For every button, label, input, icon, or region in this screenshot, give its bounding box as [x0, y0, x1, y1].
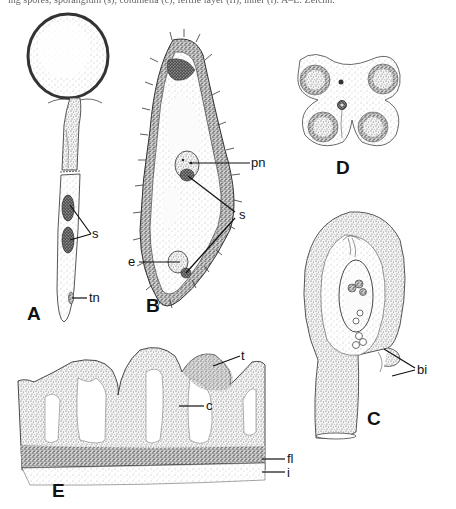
label-b-pn: pn	[251, 155, 265, 170]
label-b-e: e	[128, 254, 135, 269]
figure-illustration: s tn A	[0, 0, 456, 509]
panel-a	[28, 14, 108, 322]
label-a-tn: tn	[89, 290, 100, 305]
label-b-s: s	[239, 207, 246, 222]
panel-c	[304, 212, 415, 439]
sporangial-locus	[300, 65, 330, 95]
label-e-fl: fl	[287, 451, 294, 466]
panel-label-a: A	[27, 303, 41, 324]
label-e-t: t	[241, 348, 245, 363]
panel-label-e: E	[52, 480, 65, 501]
label-a-s: s	[92, 226, 99, 241]
panel-label-d: D	[336, 157, 350, 178]
panel-d	[298, 54, 400, 145]
label-c-bi: bi	[417, 362, 427, 377]
panel-e	[18, 348, 285, 486]
sporangial-locus	[358, 112, 388, 142]
label-e-c: c	[206, 398, 213, 413]
panel-label-c: C	[367, 408, 381, 429]
panel-b	[133, 29, 250, 310]
label-e-i: i	[287, 465, 290, 480]
sporangial-locus	[308, 112, 338, 142]
sporangial-locus	[368, 64, 398, 94]
panel-label-b: B	[146, 295, 160, 316]
